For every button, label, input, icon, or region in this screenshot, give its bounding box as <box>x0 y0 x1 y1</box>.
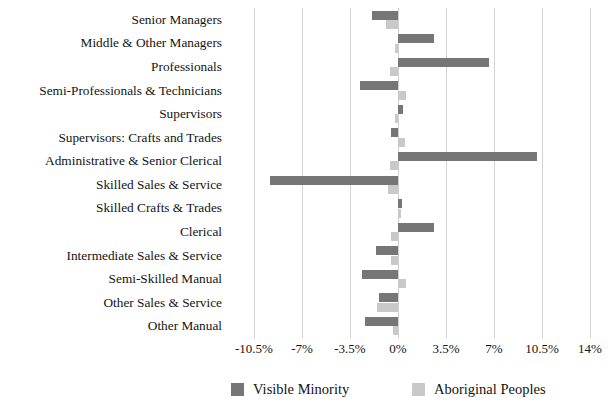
bar-aboriginal-peoples <box>395 114 398 123</box>
category-label: Supervisors: Crafts and Trades <box>0 131 222 145</box>
bar-visible-minority <box>270 176 398 185</box>
bar-aboriginal-peoples <box>398 279 406 288</box>
bar-aboriginal-peoples <box>398 91 406 100</box>
bar-aboriginal-peoples <box>398 138 405 147</box>
plot-area <box>230 8 590 338</box>
legend-label: Visible Minority <box>253 381 349 397</box>
bar-visible-minority <box>398 199 402 208</box>
bar-aboriginal-peoples <box>388 185 398 194</box>
bar-aboriginal-peoples <box>393 326 398 335</box>
bar-aboriginal-peoples <box>391 232 398 241</box>
legend-entry-visible-minority: Visible Minority <box>231 381 349 397</box>
category-label: Supervisors <box>0 107 222 121</box>
bar-visible-minority <box>398 58 489 67</box>
bar-aboriginal-peoples <box>390 67 398 76</box>
x-tick-label: 0% <box>389 341 406 357</box>
gridline <box>542 8 543 338</box>
category-label: Semi-Professionals & Technicians <box>0 84 222 98</box>
category-label: Skilled Crafts & Trades <box>0 201 222 215</box>
bar-aboriginal-peoples <box>390 161 398 170</box>
category-label: Other Manual <box>0 319 222 333</box>
x-tick-label: -7% <box>291 341 313 357</box>
bar-visible-minority <box>360 81 398 90</box>
category-label: Senior Managers <box>0 13 222 27</box>
category-label: Administrative & Senior Clerical <box>0 154 222 168</box>
bar-aboriginal-peoples <box>386 20 398 29</box>
gridline <box>350 8 351 338</box>
bar-aboriginal-peoples <box>398 209 401 218</box>
x-tick-label: -3.5% <box>334 341 365 357</box>
legend-entry-aboriginal-peoples: Aboriginal Peoples <box>412 381 546 397</box>
dark-gray-swatch-icon <box>231 383 244 396</box>
bar-visible-minority <box>398 152 537 161</box>
gridline <box>494 8 495 338</box>
category-label: Intermediate Sales & Service <box>0 249 222 263</box>
category-label: Clerical <box>0 225 222 239</box>
category-label: Skilled Sales & Service <box>0 178 222 192</box>
x-tick-label: 7% <box>485 341 502 357</box>
gridline <box>302 8 303 338</box>
category-axis-labels: Senior ManagersMiddle & Other ManagersPr… <box>0 8 228 338</box>
x-tick-label: 3.5% <box>432 341 459 357</box>
bar-visible-minority <box>372 11 398 20</box>
grouped-bar-chart: Senior ManagersMiddle & Other ManagersPr… <box>0 0 608 414</box>
bar-visible-minority <box>391 128 398 137</box>
chart-legend: Visible Minority Aboriginal Peoples <box>0 381 608 407</box>
bar-aboriginal-peoples <box>391 256 398 265</box>
category-label: Middle & Other Managers <box>0 36 222 50</box>
bar-visible-minority <box>376 246 398 255</box>
bar-visible-minority <box>398 34 434 43</box>
bar-visible-minority <box>398 105 403 114</box>
category-label: Other Sales & Service <box>0 296 222 310</box>
x-tick-label: 14% <box>578 341 602 357</box>
bar-visible-minority <box>362 270 398 279</box>
bar-visible-minority <box>379 293 398 302</box>
gridline <box>254 8 255 338</box>
category-label: Professionals <box>0 60 222 74</box>
bar-visible-minority <box>365 317 398 326</box>
x-tick-label: 10.5% <box>525 341 559 357</box>
gridline <box>590 8 591 338</box>
x-tick-label: -10.5% <box>235 341 273 357</box>
light-gray-swatch-icon <box>412 383 425 396</box>
legend-label: Aboriginal Peoples <box>434 381 546 397</box>
category-label: Semi-Skilled Manual <box>0 272 222 286</box>
bar-visible-minority <box>398 223 434 232</box>
bar-aboriginal-peoples <box>377 303 398 312</box>
x-axis-tick-labels: -10.5%-7%-3.5%0%3.5%7%10.5%14% <box>230 341 608 363</box>
bar-aboriginal-peoples <box>395 44 398 53</box>
